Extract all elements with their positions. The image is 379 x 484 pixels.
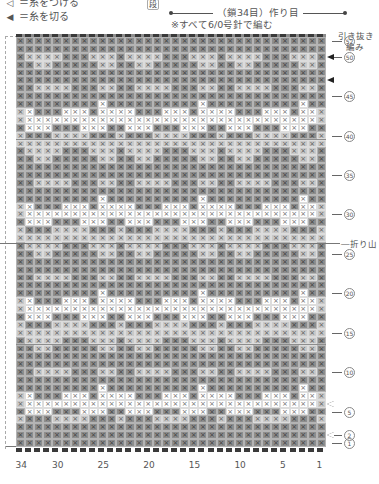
stitch-cell: × (162, 37, 171, 45)
stitch-cell: × (89, 218, 98, 226)
stitch-cell: × (98, 179, 107, 187)
stitch-cell: × (16, 218, 25, 226)
stitch-cell: × (71, 69, 80, 77)
stitch-cell: × (116, 329, 125, 337)
stitch-cell: × (25, 289, 34, 297)
join-yarn-icon (327, 401, 334, 407)
stitch-cell: × (235, 345, 244, 353)
stitch-cell: × (235, 321, 244, 329)
stitch-cell: × (235, 45, 244, 53)
stitch-cell: × (290, 368, 299, 376)
stitch-cell: × (189, 116, 198, 124)
stitch-cell: × (299, 384, 308, 392)
stitch-cell: × (299, 258, 308, 266)
legend-item-join: ◁ ＝糸をつける (4, 0, 79, 10)
stitch-cell: × (299, 108, 308, 116)
stitch-cell: × (235, 250, 244, 258)
stitch-cell: × (71, 187, 80, 195)
stitch-cell: × (98, 37, 107, 45)
stitch-cell: × (317, 345, 326, 353)
stitch-cell: × (80, 423, 89, 431)
stitch-cell: × (43, 289, 52, 297)
stitch-cell: × (125, 289, 134, 297)
stitch-cell: × (271, 84, 280, 92)
stitch-cell: × (189, 132, 198, 140)
stitch-cell: × (171, 352, 180, 360)
stitch-cell: × (98, 84, 107, 92)
stitch-cell: × (62, 108, 71, 116)
stitch-cell: × (217, 53, 226, 61)
stitch-cell: × (144, 376, 153, 384)
stitch-cell: × (180, 274, 189, 282)
stitch-cell: × (198, 376, 207, 384)
stitch-cell: × (135, 187, 144, 195)
stitch-cell: × (125, 179, 134, 187)
stitch-cell: × (217, 163, 226, 171)
stitch-cell: × (217, 360, 226, 368)
stitch-cell: × (189, 84, 198, 92)
stitch-cell: × (52, 408, 61, 416)
stitch-cell: × (280, 368, 289, 376)
stitch-cell: × (62, 423, 71, 431)
stitch-cell: × (144, 76, 153, 84)
stitch-cell: × (43, 132, 52, 140)
stitch-cell: × (52, 439, 61, 447)
row-label-45: 45 (332, 91, 355, 102)
stitch-cell: × (34, 61, 43, 69)
stitch-cell: × (226, 218, 235, 226)
stitch-cell: × (125, 305, 134, 313)
stitch-cell: × (253, 195, 262, 203)
stitch-cell: × (253, 108, 262, 116)
stitch-cell: × (235, 337, 244, 345)
stitch-cell: × (217, 392, 226, 400)
stitch-cell: × (52, 258, 61, 266)
stitch-cell: × (135, 408, 144, 416)
stitch-cell: × (144, 250, 153, 258)
stitch-cell: × (271, 163, 280, 171)
stitch-cell: × (16, 140, 25, 148)
stitch-cell: × (52, 384, 61, 392)
stitch-cell: × (16, 61, 25, 69)
stitch-cell: × (125, 100, 134, 108)
stitch-cell: × (43, 155, 52, 163)
stitch-cell: × (171, 76, 180, 84)
stitch-cell: × (16, 76, 25, 84)
stitch-cell: × (244, 124, 253, 132)
stitch-cell: × (162, 171, 171, 179)
stitch-cell: × (262, 274, 271, 282)
stitch-cell: × (25, 84, 34, 92)
stitch-cell: × (62, 345, 71, 353)
stitch-cell: × (253, 266, 262, 274)
stitch-cell: × (116, 297, 125, 305)
stitch-cell: × (253, 76, 262, 84)
stitch-cell: × (271, 321, 280, 329)
stitch-cell: × (299, 250, 308, 258)
stitch-cell: × (125, 392, 134, 400)
stitch-cell: × (135, 100, 144, 108)
stitch-cell: × (153, 45, 162, 53)
stitch-cell: × (244, 305, 253, 313)
stitch-cell: × (34, 266, 43, 274)
stitch-cell: × (135, 147, 144, 155)
stitch-cell: × (198, 203, 207, 211)
stitch-cell: × (80, 392, 89, 400)
stitch-cell: × (198, 69, 207, 77)
stitch-cell: × (280, 400, 289, 408)
stitch-cell: × (25, 171, 34, 179)
stitch-cell: × (189, 368, 198, 376)
stitch-cell: × (280, 171, 289, 179)
stitch-cell: × (71, 400, 80, 408)
stitch-cell: × (125, 163, 134, 171)
stitch-cell: × (135, 163, 144, 171)
stitch-cell: × (135, 226, 144, 234)
stitch-cell: × (71, 218, 80, 226)
stitch-cell: × (244, 313, 253, 321)
stitch-cell: × (162, 258, 171, 266)
stitch-cell: × (198, 392, 207, 400)
stitch-cell: × (226, 368, 235, 376)
stitch-cell: × (189, 305, 198, 313)
stitch-cell: × (144, 368, 153, 376)
stitch-cell: × (144, 132, 153, 140)
stitch-cell: × (244, 360, 253, 368)
stitch-cell: × (34, 187, 43, 195)
